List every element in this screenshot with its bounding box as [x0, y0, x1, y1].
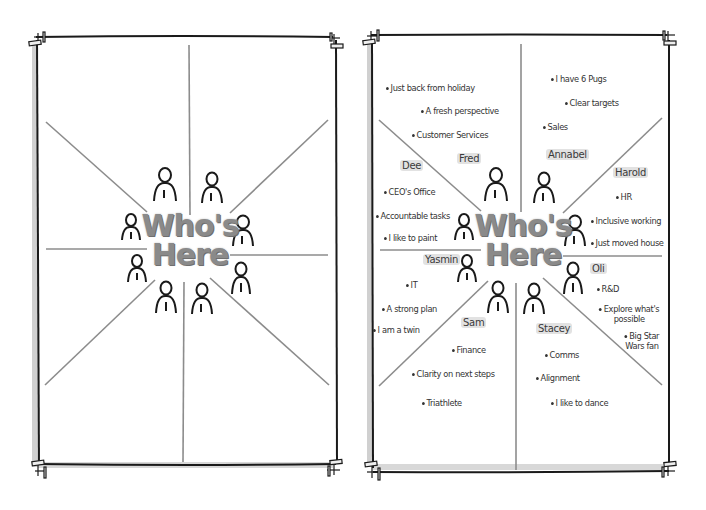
note-sam-1: Finance	[452, 345, 486, 355]
note-yasmin-1: IT	[406, 280, 417, 290]
note-oli-2: Explore what's possible	[597, 304, 661, 324]
name-fred: Fred	[457, 153, 481, 164]
name-oli: Oli	[590, 263, 607, 274]
title-line-2: Here	[473, 241, 573, 270]
note-annabel-1: I have 6 Pugs	[551, 74, 606, 84]
note-harold-1: HR	[616, 192, 632, 202]
whos-here-title: Who's Here	[140, 212, 240, 269]
note-stacey-1: Comms	[545, 350, 579, 360]
note-oli-1: R&D	[597, 284, 619, 294]
filled-template-panel: Who's Here Just back from holiday A fres…	[353, 0, 706, 510]
note-annabel-2: Clear targets	[565, 98, 619, 108]
name-annabel: Annabel	[546, 149, 589, 160]
note-harold-2: Inclusive working	[591, 216, 661, 226]
blank-template-panel: Who's Here	[0, 0, 353, 510]
note-stacey-3: I like to dance	[551, 398, 608, 408]
note-dee-1: CEO's Office	[384, 187, 435, 197]
name-yasmin: Yasmin	[423, 254, 460, 265]
note-oli-3: Big Star Wars fan	[618, 331, 666, 351]
name-stacey: Stacey	[536, 323, 572, 334]
note-sam-2: Clarity on next steps	[412, 369, 495, 379]
note-stacey-2: Alignment	[536, 373, 580, 383]
title-line-2: Here	[140, 241, 240, 270]
note-fred-3: Customer Services	[412, 130, 488, 140]
name-sam: Sam	[461, 317, 486, 328]
note-annabel-3: Sales	[543, 122, 568, 132]
note-fred-2: A fresh perspective	[421, 106, 499, 116]
name-dee: Dee	[400, 160, 423, 171]
note-harold-3: Just moved house	[591, 238, 664, 248]
note-fred-1: Just back from holiday	[386, 83, 475, 93]
note-yasmin-2: A strong plan	[382, 304, 437, 314]
note-dee-2: Accountable tasks	[376, 211, 450, 221]
whos-here-title: Who's Here	[473, 212, 573, 269]
note-dee-3: I like to paint	[384, 233, 437, 243]
name-harold: Harold	[613, 167, 648, 178]
note-sam-3: Triathlete	[422, 398, 462, 408]
note-yasmin-3: I am a twin	[373, 325, 420, 335]
